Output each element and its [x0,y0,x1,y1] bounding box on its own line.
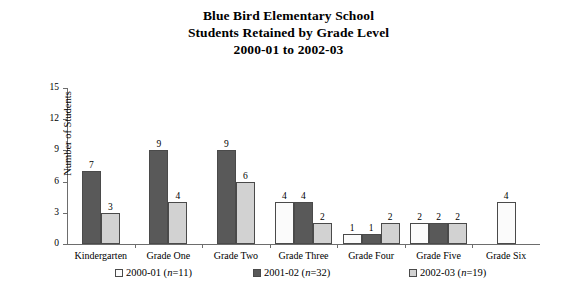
bar-value-label: 2 [320,212,325,222]
x-category-label: Grade One [147,250,191,261]
bar[interactable]: 4 [275,202,294,244]
legend-item[interactable]: 2001-02 (n=32) [253,267,330,278]
legend-item[interactable]: 2002-03 (n=19) [409,267,486,278]
x-tick-mark [405,244,406,248]
y-tick-label: 6 [35,176,59,186]
bar-value-label: 9 [156,139,161,149]
bar-value-label: 1 [350,223,355,233]
bar-value-label: 2 [388,212,393,222]
legend-label: 2000-01 (n=11) [126,267,192,278]
bar-value-label: 4 [175,191,180,201]
bar-group: 94 [135,88,203,244]
x-category-label: Grade Four [348,250,394,261]
bar-value-label: 7 [89,160,94,170]
bar[interactable]: 3 [101,213,120,244]
legend-item[interactable]: 2000-01 (n=11) [115,267,192,278]
bar-group: 112 [337,88,405,244]
legend-swatch [115,269,123,277]
bar-value-label: 2 [417,212,422,222]
x-category-label: Grade Two [214,250,258,261]
legend-label: 2002-03 (n=19) [420,267,486,278]
bar-group: 96 [202,88,270,244]
bar-value-label: 2 [436,212,441,222]
bar-group: 4 [472,88,540,244]
chart-title: Blue Bird Elementary School Students Ret… [0,7,577,58]
bar-group: 73 [67,88,135,244]
bar-value-label: 9 [224,139,229,149]
x-axis-line [67,244,540,245]
bar[interactable]: 2 [381,223,400,244]
bar[interactable]: 2 [313,223,332,244]
bar[interactable]: 9 [217,150,236,244]
bar[interactable]: 4 [497,202,516,244]
bar-value-label: 1 [369,223,374,233]
bar-value-label: 4 [301,191,306,201]
x-tick-mark [472,244,473,248]
bar-value-label: 3 [108,202,113,212]
chart-figure: Blue Bird Elementary School Students Ret… [0,0,577,297]
x-tick-mark [135,244,136,248]
bar-value-label: 6 [243,171,248,181]
x-category-label: Grade Five [416,250,461,261]
bar[interactable]: 2 [410,223,429,244]
legend-swatch [253,269,261,277]
bar[interactable]: 7 [82,171,101,244]
chart-legend: 2000-01 (n=11)2001-02 (n=32)2002-03 (n=1… [0,267,577,287]
legend-n-symbol: n [167,267,172,278]
chart-title-line-1: Blue Bird Elementary School [0,7,577,24]
y-tick-label: 0 [35,238,59,248]
plot-area: Number of Students 03691215 739496442112… [67,88,540,244]
bar[interactable]: 2 [448,223,467,244]
bar-value-label: 2 [455,212,460,222]
y-tick-label: 3 [35,207,59,217]
legend-swatch [409,269,417,277]
chart-title-line-3: 2000-01 to 2002-03 [0,41,577,58]
y-tick-label: 12 [35,113,59,123]
x-category-label: Grade Three [278,250,328,261]
bar[interactable]: 6 [236,182,255,244]
bar-group: 222 [405,88,473,244]
x-tick-mark [202,244,203,248]
y-tick-mark [63,244,67,245]
x-tick-mark [270,244,271,248]
bar[interactable]: 4 [168,202,187,244]
x-category-label: Kindergarten [74,250,127,261]
x-category-label: Grade Six [486,250,526,261]
x-tick-mark [337,244,338,248]
bar-value-label: 4 [282,191,287,201]
bar[interactable]: 9 [149,150,168,244]
bar[interactable]: 1 [343,234,362,244]
legend-n-symbol: n [305,267,310,278]
y-tick-label: 15 [35,82,59,92]
bar-value-label: 4 [504,191,509,201]
legend-n-symbol: n [461,267,466,278]
bar[interactable]: 1 [362,234,381,244]
y-tick-label: 9 [35,144,59,154]
bar-group: 442 [270,88,338,244]
bar[interactable]: 2 [429,223,448,244]
chart-title-line-2: Students Retained by Grade Level [0,24,577,41]
legend-label: 2001-02 (n=32) [264,267,330,278]
bar[interactable]: 4 [294,202,313,244]
